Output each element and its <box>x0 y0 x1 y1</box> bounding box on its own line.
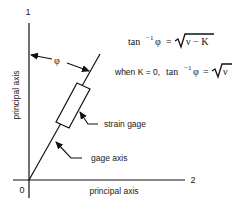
phi-arrow-left <box>31 55 52 59</box>
strain-gage-rectangle <box>56 83 90 128</box>
svg-text:tan: tan <box>166 66 178 77</box>
axis-1-number: 1 <box>25 7 30 17</box>
equation-2: when K = 0, tan −1 φ = ν <box>114 64 232 77</box>
strain-gage-diagram: φ strain gage gage axis 1 2 0 principal … <box>0 0 238 205</box>
axis-2-number: 2 <box>190 175 195 185</box>
strain-gage-label: strain gage <box>104 119 146 129</box>
horizontal-axis-label: principal axis <box>89 186 138 196</box>
svg-text:ν: ν <box>223 66 228 77</box>
sqrt-sign-2 <box>212 64 232 77</box>
origin-label: 0 <box>19 185 24 195</box>
svg-text:−1: −1 <box>146 34 154 42</box>
strain-gage-pointer <box>80 112 98 124</box>
phi-symbol: φ <box>54 55 60 66</box>
phi-arrow-right <box>67 63 89 71</box>
svg-text:−1: −1 <box>184 64 192 72</box>
equation-1: tan −1 φ = ν − K <box>128 34 214 47</box>
svg-text:=: = <box>203 66 209 77</box>
svg-text:tan: tan <box>128 36 140 47</box>
svg-text:=: = <box>166 36 172 47</box>
svg-text:when K = 0,: when K = 0, <box>114 67 160 77</box>
gage-axis-pointer <box>56 142 82 158</box>
svg-text:ν − K: ν − K <box>186 36 209 47</box>
gage-axis-label: gage axis <box>91 153 127 163</box>
svg-text:φ: φ <box>193 66 199 77</box>
svg-text:φ: φ <box>155 36 161 47</box>
vertical-axis-label: principal axis <box>11 70 21 119</box>
